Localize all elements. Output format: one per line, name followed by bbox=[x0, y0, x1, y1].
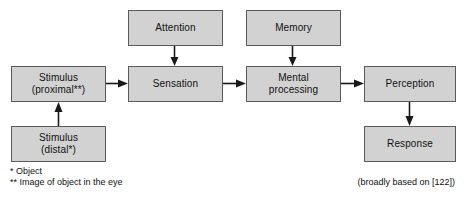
node-stimulus-distal[interactable]: Stimulus (distal*) bbox=[11, 126, 106, 162]
node-perception-label: Perception bbox=[365, 78, 455, 90]
edge-perception-to-response bbox=[405, 101, 414, 127]
node-memory[interactable]: Memory bbox=[246, 10, 341, 46]
node-perception[interactable]: Perception bbox=[364, 66, 456, 102]
edge-sensation-to-mental-processing bbox=[222, 79, 247, 88]
edge-memory-to-mental-processing bbox=[288, 45, 297, 67]
source-caption: (broadly based on [122]) bbox=[357, 177, 455, 189]
edge-attention-to-sensation bbox=[170, 45, 179, 67]
footnote-image-of-object: ** Image of object in the eye bbox=[10, 177, 123, 189]
edge-mental-processing-to-perception bbox=[340, 79, 365, 88]
node-mental-processing[interactable]: Mental processing bbox=[246, 66, 341, 102]
node-memory-label: Memory bbox=[247, 22, 340, 34]
node-stimulus-distal-label: Stimulus (distal*) bbox=[12, 132, 105, 156]
node-response-label: Response bbox=[365, 138, 455, 150]
node-stimulus-proximal-label: Stimulus (proximal**) bbox=[12, 72, 105, 96]
node-attention[interactable]: Attention bbox=[128, 10, 223, 46]
node-mental-processing-label: Mental processing bbox=[247, 72, 340, 96]
node-response[interactable]: Response bbox=[364, 126, 456, 162]
node-sensation-label: Sensation bbox=[129, 78, 222, 90]
footnote-object: * Object bbox=[10, 166, 42, 178]
node-sensation[interactable]: Sensation bbox=[128, 66, 223, 102]
node-attention-label: Attention bbox=[129, 22, 222, 34]
diagram-canvas: Attention Memory Stimulus (proximal**) S… bbox=[0, 0, 464, 197]
edge-stimulus-proximal-to-sensation bbox=[105, 79, 129, 88]
edge-stimulus-distal-to-proximal bbox=[54, 101, 63, 127]
node-stimulus-proximal[interactable]: Stimulus (proximal**) bbox=[11, 66, 106, 102]
